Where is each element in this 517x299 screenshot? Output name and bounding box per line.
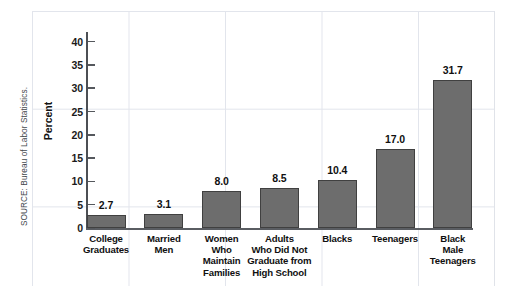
- category-label-line: Graduate from: [243, 255, 315, 266]
- bar: [318, 180, 357, 228]
- bar: [87, 215, 126, 228]
- bar-chart-plot: Percent 0510152025303540 2.73.18.08.510.…: [0, 0, 517, 299]
- y-axis-tick-label: 15: [55, 152, 83, 164]
- y-axis-tick-label: 35: [55, 59, 83, 71]
- bar-value-label: 17.0: [365, 133, 425, 145]
- bar-value-label: 3.1: [134, 198, 194, 210]
- bar-value-label: 8.5: [249, 172, 309, 184]
- category-label-line: High School: [243, 267, 315, 278]
- y-axis-tick: [88, 157, 95, 159]
- bar: [260, 188, 299, 228]
- y-axis-tick-label: 25: [55, 106, 83, 118]
- y-axis-title: Percent: [42, 86, 54, 156]
- category-label-line: Teenagers: [417, 255, 489, 266]
- y-axis-tick: [88, 64, 95, 66]
- y-axis-tick-label: 40: [55, 36, 83, 48]
- category-label-line: Black: [417, 233, 489, 244]
- chart-page: SOURCE: Bureau of Labor Statistics. Perc…: [0, 0, 517, 299]
- y-axis-tick: [88, 111, 95, 113]
- x-axis-line: [86, 228, 473, 230]
- category-label-line: Male: [417, 244, 489, 255]
- y-axis-tick: [88, 181, 95, 183]
- bar: [144, 214, 183, 228]
- bar-value-label: 10.4: [307, 164, 367, 176]
- bar-value-label: 2.7: [76, 199, 136, 211]
- y-axis-tick: [88, 134, 95, 136]
- x-axis-category-label: BlackMaleTeenagers: [417, 233, 489, 267]
- bar: [202, 191, 241, 228]
- y-axis-tick-label: 30: [55, 82, 83, 94]
- bar: [433, 80, 472, 228]
- y-axis-tick: [88, 87, 95, 89]
- y-axis-tick-label: 10: [55, 175, 83, 187]
- category-label-line: Who Did Not: [243, 244, 315, 255]
- bar-value-label: 8.0: [192, 175, 252, 187]
- bar-value-label: 31.7: [423, 64, 483, 76]
- y-axis-tick-label: 20: [55, 129, 83, 141]
- y-axis-tick: [88, 41, 95, 43]
- bar: [376, 149, 415, 228]
